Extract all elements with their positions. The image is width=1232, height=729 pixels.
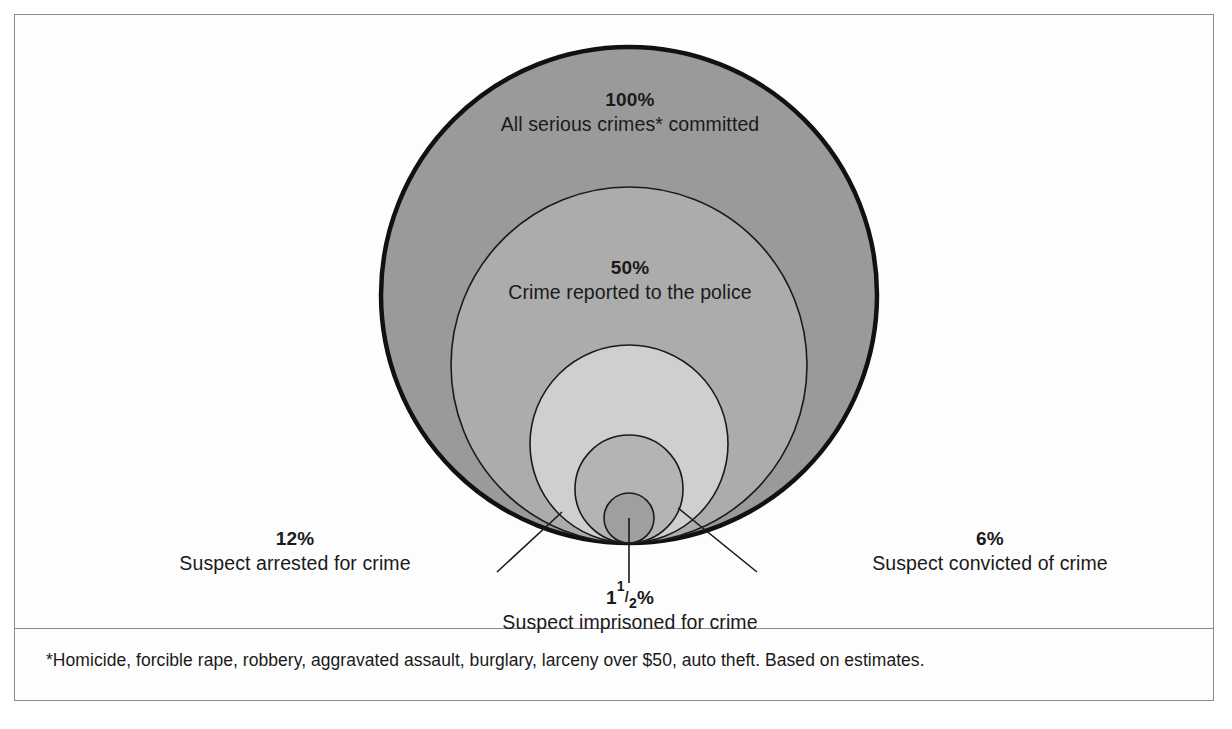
label-imprisoned-percent-sign: % (637, 587, 654, 608)
label-convicted-percent: 6% (790, 527, 1190, 551)
figure-page: 100% All serious crimes* committed 50% C… (0, 0, 1232, 729)
label-all-crimes-percent: 100% (440, 88, 820, 112)
label-imprisoned-fraction: 1/2 (617, 589, 637, 605)
label-arrested: 12% Suspect arrested for crime (95, 527, 495, 576)
footnote-text: *Homicide, forcible rape, robbery, aggra… (46, 650, 1166, 671)
label-imprisoned-percent: 11/2% (440, 586, 820, 610)
label-imprisoned: 11/2% Suspect imprisoned for crime (440, 586, 820, 635)
label-imprisoned-denominator: 2 (629, 595, 637, 611)
label-reported: 50% Crime reported to the police (455, 256, 805, 305)
label-arrested-percent: 12% (95, 527, 495, 551)
label-imprisoned-whole: 1 (606, 587, 617, 608)
label-convicted-description: Suspect convicted of crime (790, 551, 1190, 576)
label-imprisoned-description: Suspect imprisoned for crime (440, 610, 820, 635)
label-reported-description: Crime reported to the police (455, 280, 805, 305)
label-convicted: 6% Suspect convicted of crime (790, 527, 1190, 576)
label-all-crimes: 100% All serious crimes* committed (440, 88, 820, 137)
label-all-crimes-description: All serious crimes* committed (440, 112, 820, 137)
label-imprisoned-numerator: 1 (617, 578, 625, 594)
label-arrested-description: Suspect arrested for crime (95, 551, 495, 576)
label-reported-percent: 50% (455, 256, 805, 280)
